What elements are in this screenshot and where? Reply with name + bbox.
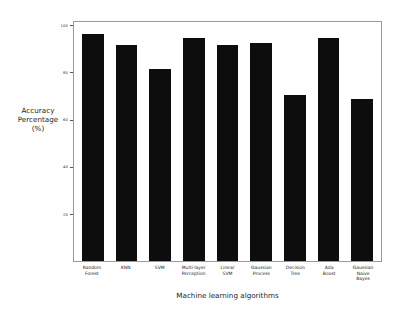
bar-slot bbox=[143, 22, 177, 261]
bar-chart-figure: AccuracyPercentage(%) 20406080100 Random… bbox=[0, 0, 406, 317]
x-axis-tick-labels: RandomForestKNNSVMMulti-layerPerceptionL… bbox=[73, 265, 382, 289]
x-axis-tick-label-line: Multi-layer bbox=[178, 265, 210, 271]
bar[interactable] bbox=[351, 99, 373, 261]
bar[interactable] bbox=[284, 95, 306, 261]
bar[interactable] bbox=[149, 69, 171, 261]
bar-slot bbox=[110, 22, 144, 261]
plot-area bbox=[73, 21, 382, 262]
y-axis-tick-label: 20 bbox=[63, 213, 68, 217]
bar-series bbox=[74, 22, 381, 261]
x-axis-tick-label: KNN bbox=[109, 265, 143, 289]
bar-slot bbox=[244, 22, 278, 261]
bar[interactable] bbox=[217, 45, 239, 261]
bar-slot bbox=[278, 22, 312, 261]
x-axis-tick-label-line: SVM bbox=[212, 271, 244, 277]
x-axis-tick-label-line: Forest bbox=[76, 271, 108, 277]
bar[interactable] bbox=[82, 34, 104, 261]
bar-slot bbox=[177, 22, 211, 261]
x-axis-tick-label-line: Tree bbox=[279, 271, 311, 277]
x-axis-tick-label-line: Boost bbox=[313, 271, 345, 277]
x-axis-tick-label-line: SVM bbox=[144, 265, 176, 271]
x-axis-tick-label-line: Bayes bbox=[347, 276, 379, 282]
y-axis-tick-label: 40 bbox=[63, 165, 68, 169]
x-axis-tick-label-line: Process bbox=[245, 271, 277, 277]
bar[interactable] bbox=[116, 45, 138, 261]
bar-slot bbox=[312, 22, 346, 261]
x-axis-tick-label: LinearSVM bbox=[211, 265, 245, 289]
x-axis-tick-label: DecisionTree bbox=[278, 265, 312, 289]
x-axis-tick-label: GaussianProcess bbox=[244, 265, 278, 289]
x-axis-tick-label-line: Perception bbox=[178, 271, 210, 277]
y-axis-tick-label: 100 bbox=[61, 24, 68, 28]
x-axis-title: Machine learning algorithms bbox=[73, 291, 382, 300]
x-axis-tick-label: GaussianNaiveBayes bbox=[346, 265, 380, 289]
x-axis-tick-label: RandomForest bbox=[75, 265, 109, 289]
bar[interactable] bbox=[250, 43, 272, 261]
x-axis-tick-label: SVM bbox=[143, 265, 177, 289]
bar[interactable] bbox=[183, 38, 205, 261]
x-axis-tick-label-line: KNN bbox=[110, 265, 142, 271]
bar-slot bbox=[76, 22, 110, 261]
x-axis-tick-label: Multi-layerPerception bbox=[177, 265, 211, 289]
y-axis-tick-label: 60 bbox=[63, 118, 68, 122]
bar-slot bbox=[345, 22, 379, 261]
bar[interactable] bbox=[318, 38, 340, 261]
x-axis-tick-label: AdaBoost bbox=[312, 265, 346, 289]
y-axis-ticks: 20406080100 bbox=[0, 21, 73, 262]
y-axis-tick-label: 80 bbox=[63, 71, 68, 75]
bar-slot bbox=[211, 22, 245, 261]
